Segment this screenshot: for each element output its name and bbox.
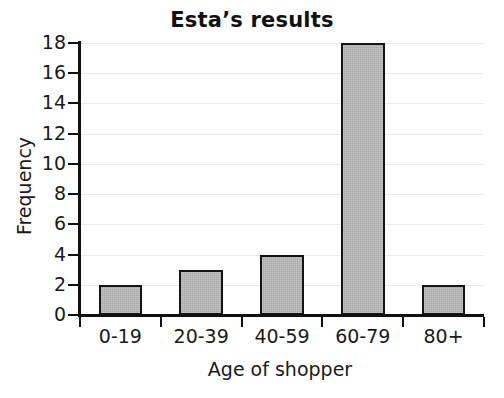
- y-axis-tick: [68, 314, 79, 316]
- y-axis-line: [78, 41, 81, 317]
- y-axis-tick-label: 14: [30, 93, 66, 112]
- y-axis-tick-label: 18: [30, 33, 66, 52]
- gridline: [80, 134, 484, 135]
- gridline: [80, 164, 484, 165]
- y-axis-tick: [68, 133, 79, 135]
- gridline: [80, 73, 484, 74]
- bar: [260, 255, 304, 315]
- x-axis-tick: [321, 317, 323, 327]
- x-axis-tick: [160, 317, 162, 327]
- chart-title: Esta’s results: [0, 8, 504, 32]
- y-axis-tick-label: 2: [30, 275, 66, 294]
- x-axis-tick: [79, 317, 81, 327]
- y-axis-tick: [68, 42, 79, 44]
- x-axis-tick-label: 60-79: [322, 325, 403, 347]
- x-axis-title: Age of shopper: [80, 358, 480, 380]
- bar: [422, 285, 466, 315]
- y-axis-tick-label: 4: [30, 245, 66, 264]
- bar: [179, 270, 223, 315]
- y-axis-tick: [68, 284, 79, 286]
- y-axis-tick: [68, 163, 79, 165]
- y-axis-tick-label: 6: [30, 214, 66, 233]
- x-axis-line: [78, 314, 484, 317]
- y-axis-tick: [68, 223, 79, 225]
- x-axis-tick-label: 0-19: [80, 325, 161, 347]
- bar: [341, 43, 385, 315]
- y-axis-tick: [68, 193, 79, 195]
- x-axis-tick-label: 20-39: [161, 325, 242, 347]
- gridline: [80, 103, 484, 104]
- y-axis-tick-label: 8: [30, 184, 66, 203]
- y-axis-tick: [68, 72, 79, 74]
- y-axis-tick-label: 0: [30, 305, 66, 324]
- plot-area: [80, 43, 484, 315]
- gridline: [80, 224, 484, 225]
- bar: [99, 285, 143, 315]
- x-axis-tick-label: 40-59: [242, 325, 323, 347]
- x-axis-tick: [402, 317, 404, 327]
- gridline: [80, 194, 484, 195]
- y-axis-tick-label: 12: [30, 124, 66, 143]
- bar-chart: Esta’s results Frequency Age of shopper …: [0, 0, 504, 398]
- y-axis-tick-label: 16: [30, 63, 66, 82]
- y-axis-tick-label: 10: [30, 154, 66, 173]
- x-axis-tick: [241, 317, 243, 327]
- gridline: [80, 43, 484, 44]
- x-axis-tick-label: 80+: [403, 325, 484, 347]
- y-axis-tick: [68, 102, 79, 104]
- y-axis-tick: [68, 254, 79, 256]
- x-axis-tick: [483, 317, 485, 327]
